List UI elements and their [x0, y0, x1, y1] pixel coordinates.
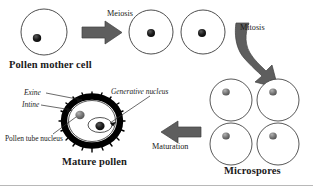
leader-exine: [46, 93, 82, 100]
process-label-mitosis: Mitosis: [240, 24, 265, 32]
stage-label-pollen-mother-cell: Pollen mother cell: [9, 60, 92, 71]
nucleus-icon: [222, 88, 230, 95]
pollen-tube-nucleus-icon: [75, 111, 84, 119]
nucleus-icon: [269, 88, 277, 95]
nucleus-icon: [33, 34, 41, 42]
nucleus-icon: [222, 132, 230, 139]
nucleus-icon: [147, 29, 155, 37]
stage-label-mature-pollen: Mature pollen: [62, 157, 127, 168]
cell-microspore-bottom-left: [210, 123, 252, 165]
cell-dyad-right: [181, 10, 225, 54]
callout-label-pollen-tube-nucleus: Pollen tube nucleus: [5, 135, 63, 142]
process-label-maturation: Maturation: [152, 143, 188, 151]
nucleus-icon: [269, 132, 277, 139]
pollen-development-diagram: Meiosis Mitosis Maturation Pollen mother…: [0, 0, 313, 186]
cell-dyad-left: [129, 10, 173, 54]
callout-label-generative-nucleus: Generative nucleus: [111, 88, 168, 95]
nucleus-icon: [198, 29, 206, 37]
mitosis-arrow-icon: [235, 23, 278, 88]
callout-label-intine: Intine: [22, 101, 39, 108]
maturation-arrow-icon: [161, 121, 201, 143]
meiosis-arrow-icon: [82, 21, 122, 44]
cell-microspore-top-right: [257, 79, 299, 121]
callout-label-exine: Exine: [24, 89, 41, 96]
process-label-meiosis: Meiosis: [107, 10, 133, 18]
cell-pollen-mother: [21, 9, 67, 55]
generative-nucleus-icon: [95, 122, 104, 130]
stage-label-microspores: Microspores: [224, 166, 281, 177]
cell-microspore-bottom-right: [257, 123, 299, 165]
cell-microspore-top-left: [210, 79, 252, 121]
